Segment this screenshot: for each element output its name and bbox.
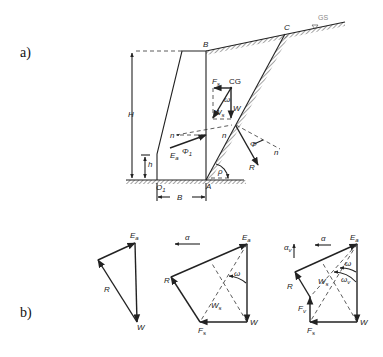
- poly1-label-Ea: Ea: [130, 231, 139, 241]
- poly2-label-Fs: Fs: [198, 326, 206, 336]
- label-Fs: Fs: [212, 77, 220, 87]
- poly2-label-Ea: Ea: [242, 233, 251, 243]
- label-CG: CG: [229, 77, 241, 86]
- force-polygon-static: Ea R W: [98, 231, 146, 332]
- part-b-label: b): [20, 305, 32, 321]
- poly3-label-Fs: Fs: [307, 326, 315, 336]
- poly2-label-alpha: α: [185, 233, 190, 242]
- poly3-label-alpha: α: [321, 234, 326, 243]
- label-B-width: B: [177, 193, 183, 202]
- label-Phi: Φ: [250, 140, 257, 149]
- label-h: h: [148, 160, 153, 169]
- label-n-right: n: [274, 148, 279, 157]
- poly3-label-alpha-v: αv: [284, 243, 293, 253]
- ground-base: [126, 180, 246, 184]
- poly1-label-R: R: [104, 285, 110, 294]
- label-Phi1: Φ1: [182, 147, 192, 157]
- part-a: a) H h: [20, 14, 345, 202]
- poly3-label-W: W: [360, 318, 369, 327]
- part-a-label: a): [20, 45, 31, 61]
- label-W: W: [233, 104, 242, 113]
- retaining-wall: [157, 51, 206, 180]
- label-omega: ω: [224, 95, 230, 104]
- force-polygon-horizontal: α Ea R ω Ws Fs W: [164, 233, 259, 336]
- label-H: H: [128, 110, 134, 119]
- poly1-label-W: W: [137, 323, 146, 332]
- label-Ws: Ws: [214, 108, 225, 118]
- failure-plane: [206, 34, 289, 180]
- label-A: A: [205, 182, 211, 191]
- label-rho: ρ: [217, 167, 223, 176]
- part-b: b) Ea R W α Ea R ω Ws Fs W: [20, 231, 369, 336]
- poly2-label-W: W: [250, 318, 259, 327]
- small-height-dimension: h: [141, 155, 153, 178]
- label-R: R: [249, 163, 255, 172]
- poly3-label-Ws: Ws: [318, 277, 329, 287]
- poly3-label-Fv: Fv: [298, 304, 307, 314]
- earth-pressure-group: n n n Φ1 Ea: [170, 125, 280, 161]
- poly3-label-omega: ω: [345, 259, 351, 268]
- retaining-wall-force-diagram: a) H h: [0, 0, 383, 357]
- label-n-left: n: [170, 131, 175, 140]
- backfill-surface: [206, 22, 345, 55]
- poly2-label-Ws: Ws: [211, 301, 222, 311]
- label-B-top: B: [203, 40, 209, 49]
- poly2-label-omega: ω: [234, 269, 240, 278]
- poly2-label-R: R: [164, 276, 170, 285]
- label-C: C: [284, 23, 290, 32]
- reaction-group: Φ R: [236, 126, 263, 172]
- label-O1: O1: [156, 183, 166, 193]
- cg-force-group: Fs CG ω Ws W: [212, 77, 242, 119]
- label-GS: GS: [318, 14, 328, 21]
- poly3-label-Ea: Ea: [350, 233, 359, 243]
- poly3-label-R: R: [287, 282, 293, 291]
- label-n-mid: n: [222, 131, 227, 140]
- force-polygon-vertical: α αv Ea R ω ωv Ws Fv Fs W: [284, 233, 369, 336]
- label-Ea: Ea: [170, 151, 179, 161]
